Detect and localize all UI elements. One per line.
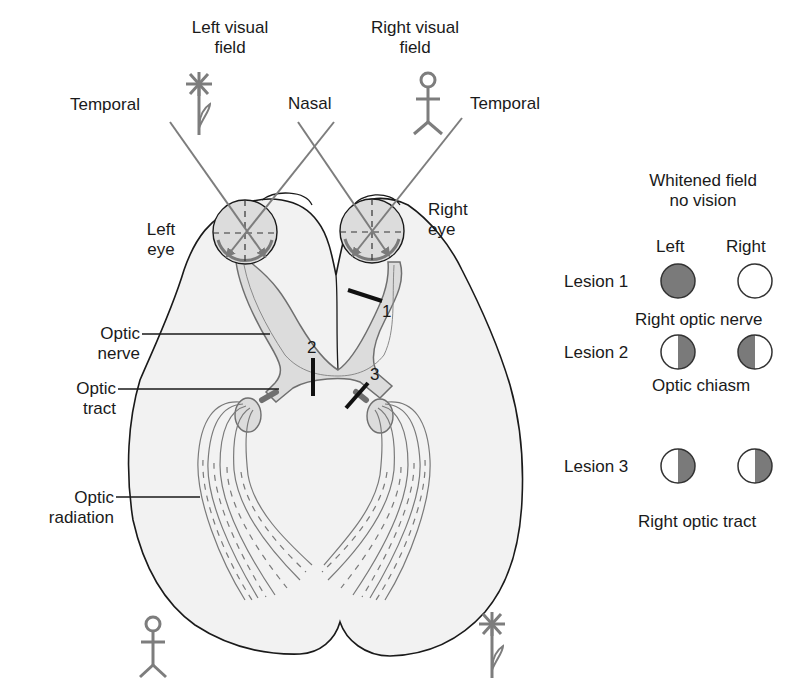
lesion-3-left-field <box>661 449 695 483</box>
visual-pathway-diagram: Left visual field Right visual field Tem… <box>0 0 800 689</box>
lesion-1-right-field <box>738 264 772 298</box>
legend-field-circles <box>0 0 800 689</box>
lesion-3-right-field <box>738 449 772 483</box>
lesion-2-left-field <box>661 335 695 369</box>
lesion-2-right-field <box>738 335 772 369</box>
lesion-1-left-field <box>661 264 695 298</box>
